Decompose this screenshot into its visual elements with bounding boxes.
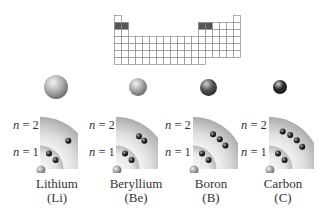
element-symbol: (B)	[171, 191, 251, 205]
atom-sphere-beryllium	[129, 78, 147, 96]
atom-sphere-lithium	[44, 75, 68, 99]
electron-shells	[160, 113, 238, 173]
electron-shells	[236, 113, 314, 173]
shell-diagram-lithium: n = 2 n = 1	[0, 113, 78, 173]
shell-diagram-boron: n = 2 n = 1	[160, 113, 238, 173]
shell-diagram-beryllium: n = 2 n = 1	[80, 113, 158, 173]
element-label-carbon: Carbon (C)	[243, 177, 323, 205]
element-symbol: (Li)	[17, 191, 97, 205]
electron-shells	[0, 113, 78, 173]
periodic-table	[0, 0, 326, 80]
element-label-beryllium: Beryllium (Be)	[96, 177, 176, 205]
element-label-boron: Boron (B)	[171, 177, 251, 205]
electron-shells	[80, 113, 158, 173]
atom-sphere-boron	[200, 79, 217, 96]
element-symbol: (Be)	[96, 191, 176, 205]
shell-diagram-carbon: n = 2 n = 1	[236, 113, 314, 173]
element-name: Lithium	[17, 177, 97, 191]
element-symbol: (C)	[243, 191, 323, 205]
element-name: Beryllium	[96, 177, 176, 191]
atom-sphere-carbon	[273, 80, 287, 94]
element-name: Boron	[171, 177, 251, 191]
element-label-lithium: Lithium (Li)	[17, 177, 97, 205]
element-name: Carbon	[243, 177, 323, 191]
